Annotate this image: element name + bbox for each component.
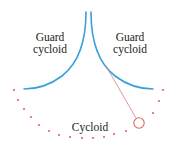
pendulum-bob [134, 118, 144, 128]
pendulum-string [106, 66, 136, 118]
cycloid-label: Cycloid [70, 121, 110, 133]
cycloid-pendulum-diagram: Guard cycloid Guard cycloid Cycloid [0, 0, 171, 149]
right-guard-label: Guard cycloid [110, 31, 150, 55]
right-guard-label-line2: cycloid [110, 43, 150, 55]
right-guard-label-line1: Guard [110, 31, 150, 43]
left-guard-label-line2: cycloid [30, 43, 70, 55]
left-guard-label-line1: Guard [30, 31, 70, 43]
left-guard-label: Guard cycloid [30, 31, 70, 55]
